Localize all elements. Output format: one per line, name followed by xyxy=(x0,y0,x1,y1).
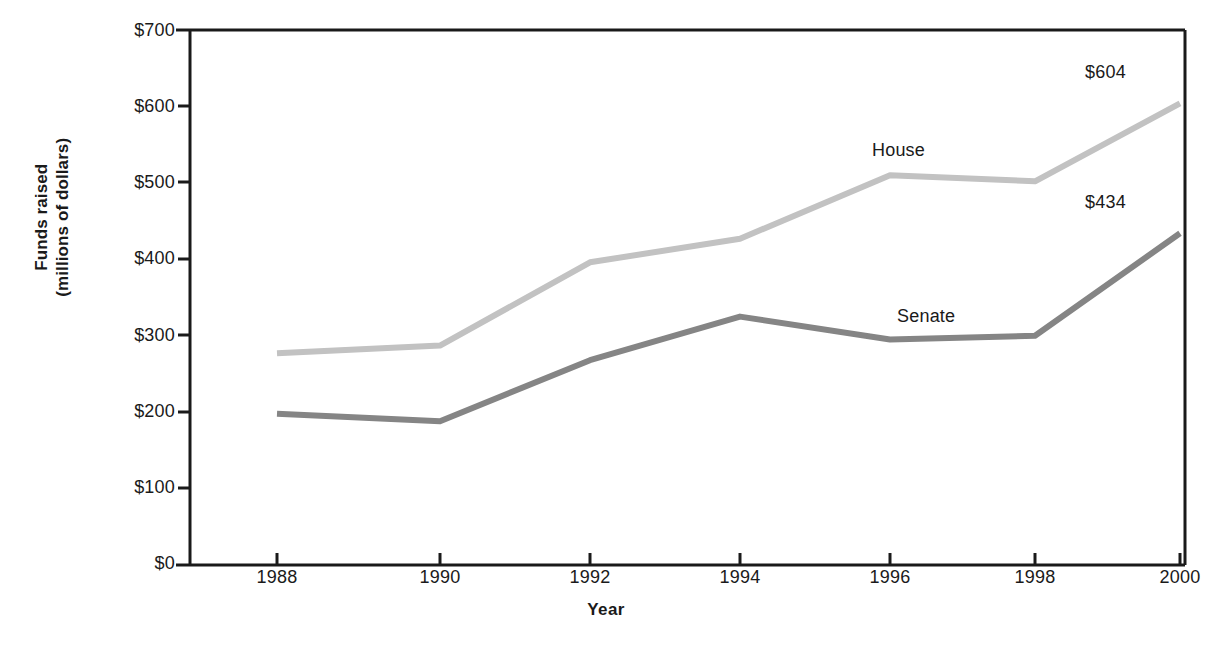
line-chart: Funds raised (millions of dollars) Year … xyxy=(0,0,1212,650)
series-label-senate: Senate xyxy=(897,306,955,327)
series-label-house: House xyxy=(872,140,925,161)
y-axis-ticks xyxy=(176,30,190,565)
plot-area xyxy=(0,0,1212,650)
series-line-senate xyxy=(277,233,1180,421)
axis-frame xyxy=(190,30,1185,565)
value-label-senate-2000: $434 xyxy=(1085,192,1126,213)
x-axis-ticks xyxy=(277,553,1180,565)
series-line-house xyxy=(277,103,1180,353)
value-label-house-2000: $604 xyxy=(1085,62,1126,83)
